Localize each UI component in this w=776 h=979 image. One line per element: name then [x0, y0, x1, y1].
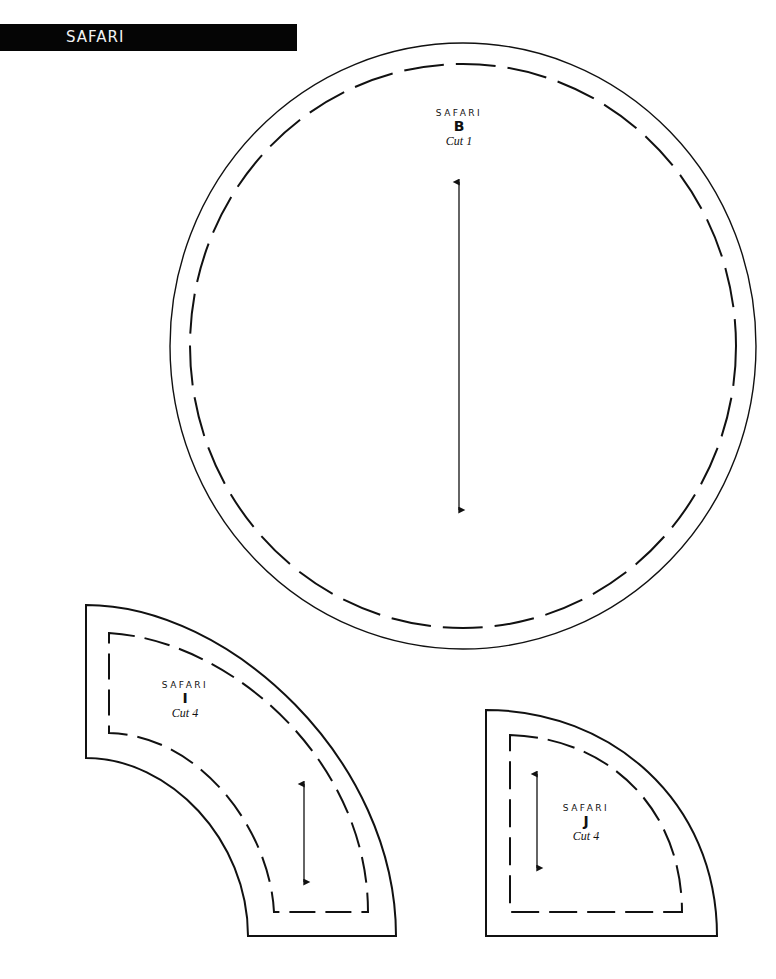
piece-i-brand: SAFARI [125, 680, 245, 690]
piece-i-cut-line [86, 605, 396, 936]
pattern-sheet [0, 0, 776, 979]
piece-b-cut-count: Cut 1 [399, 134, 519, 149]
piece-i-label: SAFARI I Cut 4 [125, 680, 245, 721]
piece-j-cut-count: Cut 4 [526, 829, 646, 844]
piece-i [86, 605, 396, 936]
piece-i-letter: I [125, 690, 245, 706]
piece-b-brand: SAFARI [399, 108, 519, 118]
piece-b-label: SAFARI B Cut 1 [399, 108, 519, 149]
piece-j-letter: J [526, 813, 646, 829]
piece-b-letter: B [399, 118, 519, 134]
piece-j-label: SAFARI J Cut 4 [526, 803, 646, 844]
piece-i-cut-count: Cut 4 [125, 706, 245, 721]
piece-j-brand: SAFARI [526, 803, 646, 813]
